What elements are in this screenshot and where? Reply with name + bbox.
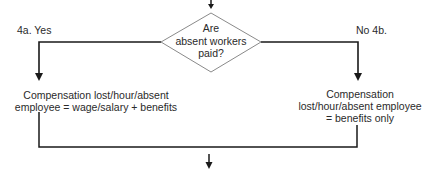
decision-line-1: Are <box>170 22 252 35</box>
yes-branch-label: 4a. Yes <box>17 24 51 36</box>
no-branch-label: No 4b. <box>356 24 387 36</box>
no-branch-connector <box>261 42 362 81</box>
yes-branch-connector <box>35 42 161 81</box>
outgoing-arrow <box>206 154 213 169</box>
yes-result-line-1: Compensation lost/hour/absent <box>6 89 186 101</box>
no-result-line-3: = benefits only <box>295 112 425 124</box>
no-result-line-2: lost/hour/absent employee <box>295 100 425 112</box>
decision-question: Are absent workers paid? <box>170 22 252 60</box>
incoming-arrow <box>208 0 214 9</box>
yes-result-line-2: employee = wage/salary + benefits <box>6 101 186 113</box>
no-result: Compensation lost/hour/absent employee =… <box>295 88 425 124</box>
decision-line-3: paid? <box>170 47 252 60</box>
yes-result: Compensation lost/hour/absent employee =… <box>6 89 186 113</box>
no-result-line-1: Compensation <box>295 88 425 100</box>
decision-line-2: absent workers <box>170 35 252 48</box>
